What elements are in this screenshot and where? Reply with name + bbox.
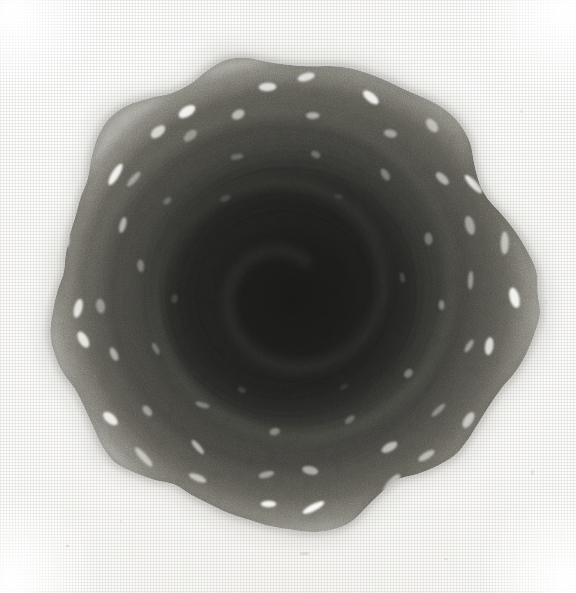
- dark-circular-form-svg: [0, 0, 576, 593]
- form-body-group: [0, 0, 576, 593]
- form-core-shadow: [158, 166, 418, 418]
- dark-circular-form: [0, 0, 576, 593]
- artwork-canvas: [0, 0, 576, 593]
